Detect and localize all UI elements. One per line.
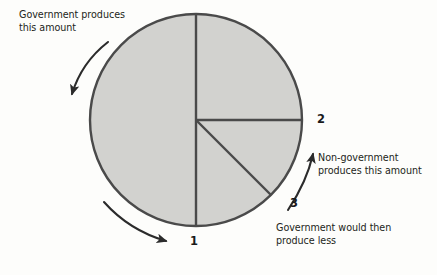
figure-canvas: Government produces this amount Non-gove… xyxy=(0,0,437,275)
marker-label-1: 1 xyxy=(190,234,198,248)
marker-label-3: 3 xyxy=(290,196,298,210)
annotation-government-produces: Government produces this amount xyxy=(19,9,125,34)
marker-label-2: 2 xyxy=(317,112,325,126)
annotation-government-would-produce-less: Government would then produce less xyxy=(276,222,391,247)
annotation-non-government: Non-government produces this amount xyxy=(318,152,422,177)
